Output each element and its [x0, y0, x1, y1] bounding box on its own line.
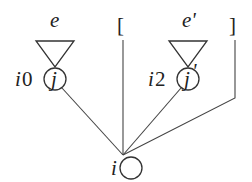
left-triangle-label: e [50, 8, 59, 32]
edge-left-to-root [62, 88, 123, 155]
right-node-prime: ' [192, 59, 197, 83]
bracket-close: ] [229, 13, 236, 37]
left-index-digit: 0 [22, 67, 33, 91]
left-triangle [36, 41, 74, 67]
right-index-italic: i [148, 67, 154, 91]
right-triangle [169, 41, 207, 67]
bracket-open: [ [117, 13, 124, 37]
edge-right-to-root [123, 88, 181, 155]
tree-diagram: e j i 0 e' j ' i 2 [ ] i [0, 0, 252, 182]
left-node-label: j [48, 67, 57, 91]
right-index-digit: 2 [155, 67, 166, 91]
right-node-label: j [181, 67, 190, 91]
right-triangle-label: e' [182, 8, 196, 32]
root-node-circle [120, 157, 142, 179]
left-index-italic: i [15, 67, 21, 91]
edge-outer-right [123, 40, 235, 155]
root-node-label: i [111, 156, 117, 180]
